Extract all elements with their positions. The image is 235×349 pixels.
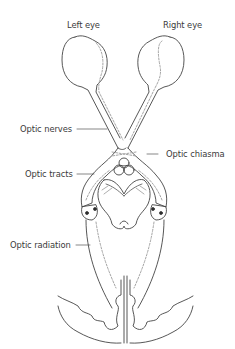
optic-chiasma-icon — [81, 148, 166, 207]
label-optic-nerves: Optic nerves — [20, 124, 72, 134]
optic-radiation-icon — [86, 220, 164, 308]
lgn-left-icon — [81, 205, 97, 220]
right-eye-icon — [125, 36, 184, 148]
label-optic-chiasma: Optic chiasma — [166, 149, 225, 159]
label-left-eye: Left eye — [67, 20, 100, 30]
label-optic-radiation: Optic radiation — [10, 240, 71, 250]
label-right-eye: Right eye — [163, 20, 202, 30]
midbrain-icon — [98, 158, 150, 229]
lgn-right-icon — [151, 205, 167, 220]
label-optic-tracts: Optic tracts — [25, 169, 73, 179]
occipital-cortex-icon — [58, 276, 193, 343]
